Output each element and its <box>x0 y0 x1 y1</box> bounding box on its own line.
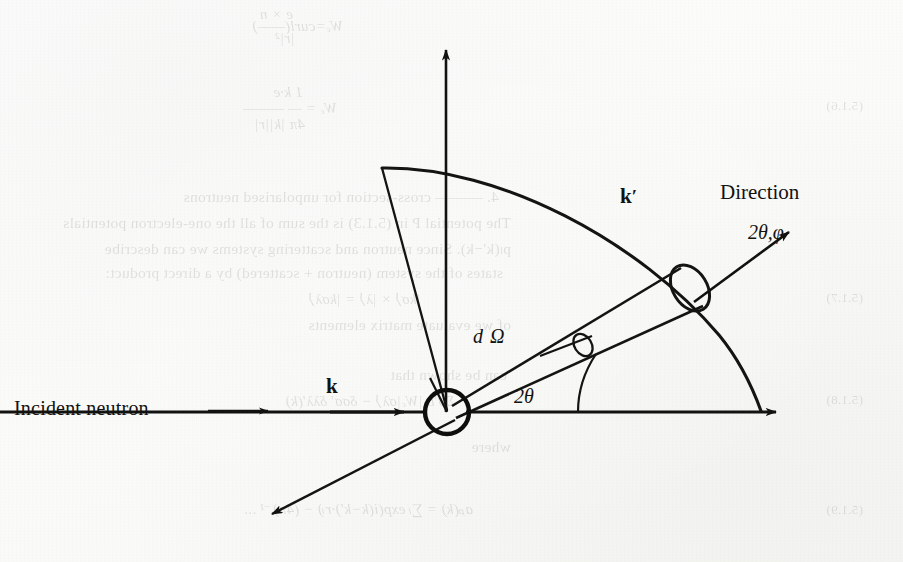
k-vector-label: k <box>326 376 338 397</box>
bleed-through-line: (5.1.8) <box>826 392 863 408</box>
bleed-through-line: 4π |k||r| <box>255 116 305 133</box>
scattering-angle-label: 2θ <box>514 386 534 406</box>
detector-aperture-ellipse <box>662 258 717 318</box>
bleed-through-line: pₗ(k'−k). Since neutron and scattering s… <box>105 240 511 258</box>
sector-radial-edge <box>382 168 447 410</box>
solid-angle-label: d Ω <box>473 326 505 346</box>
bleed-through-line: where <box>472 438 511 456</box>
bleed-through-line: aₚ(k) = ∑ₗ exp(i(k−k')·rₗ) − (4π)⁻¹ ... <box>244 500 473 518</box>
scattering-centre-circle <box>425 390 469 434</box>
centre-cross-stub <box>430 378 447 412</box>
direction-label: Direction <box>720 182 799 203</box>
paper-texture <box>0 0 903 562</box>
direction-angles-label: 2θ,φ <box>748 222 784 242</box>
scattered-ray-lower-left <box>272 420 455 514</box>
d-omega-leader <box>540 336 592 356</box>
bleed-through-line: e × n <box>260 6 293 23</box>
bleed-through-line: |r|² <box>275 30 295 47</box>
sector-arc <box>382 168 761 411</box>
bleed-through-line: Wₑ=curl(——) <box>252 18 343 35</box>
scattering-figure: Wₑ=curl(——)e × n|r|²1 k·eWₑ = — ———4π |k… <box>0 0 903 562</box>
scan-grain-overlay <box>0 0 903 562</box>
bleed-through-line: 4. ——— cross-section for unpolarised neu… <box>183 188 499 206</box>
scattering-angle-arc <box>578 354 596 412</box>
bleed-through-line: The potential P in (5.1.3) is the sum of… <box>63 214 511 232</box>
d-omega-marker-ellipse <box>569 330 596 359</box>
bleed-through-line: Wₑ = — ——— <box>243 100 337 117</box>
cone-edge-lower <box>456 306 703 418</box>
k-prime-mark: ′ <box>632 186 637 207</box>
bleed-through-line: (5.1.7) <box>826 290 863 306</box>
k-prime-base: k <box>620 184 632 208</box>
bleed-through-line: states of the system (neutron + scattere… <box>105 264 503 282</box>
bleed-through-line: Σσ'b |Wₑ|σλ⟩ − δσσ' δλλ'(k) <box>285 392 455 410</box>
bleed-through-line: (5.1.9) <box>826 502 863 518</box>
bleed-through-line: (5.1.6) <box>826 98 863 114</box>
incident-neutron-label: Incident neutron <box>14 398 149 418</box>
bleed-through-layer: Wₑ=curl(——)e × n|r|²1 k·eWₑ = — ———4π |k… <box>0 0 903 562</box>
bleed-through-line: 1 k·e <box>273 84 303 101</box>
bleed-through-line: |kσ⟩ × |λ⟩ = |kσλ⟩ <box>309 290 421 308</box>
figure-linework <box>0 0 903 562</box>
k-prime-vector-label: k′ <box>620 186 637 207</box>
bleed-through-line: can be shown that <box>390 366 507 384</box>
sphere-sector <box>382 168 761 411</box>
